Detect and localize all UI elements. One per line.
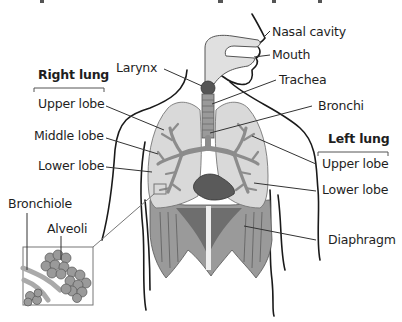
label-mouth: Mouth <box>272 49 310 62</box>
label-left-lower-lobe: Lower lobe <box>322 184 388 197</box>
right-lung-bracket <box>34 88 104 92</box>
respiratory-system-diagram: Nasal cavity Mouth Larynx Trachea Bronch… <box>0 0 402 322</box>
label-alveoli: Alveoli <box>47 223 87 236</box>
label-bronchi: Bronchi <box>318 100 364 113</box>
label-trachea: Trachea <box>279 74 326 87</box>
label-right-middle-lobe: Middle lobe <box>34 130 104 143</box>
label-left-upper-lobe: Upper lobe <box>322 158 389 171</box>
clipped-title-fragment <box>40 0 322 3</box>
label-larynx: Larynx <box>116 62 157 75</box>
left-lung-header: Left lung <box>328 133 389 146</box>
larynx-shape <box>201 81 215 95</box>
label-nasal-cavity: Nasal cavity <box>272 26 346 39</box>
trachea-shape <box>202 94 214 138</box>
label-diaphragm: Diaphragm <box>328 234 396 247</box>
label-right-upper-lobe: Upper lobe <box>38 98 105 111</box>
label-bronchiole: Bronchiole <box>8 198 72 211</box>
label-right-lower-lobe: Lower lobe <box>38 160 104 173</box>
diaphragm-shape <box>150 200 272 278</box>
right-lung-header: Right lung <box>38 69 109 82</box>
